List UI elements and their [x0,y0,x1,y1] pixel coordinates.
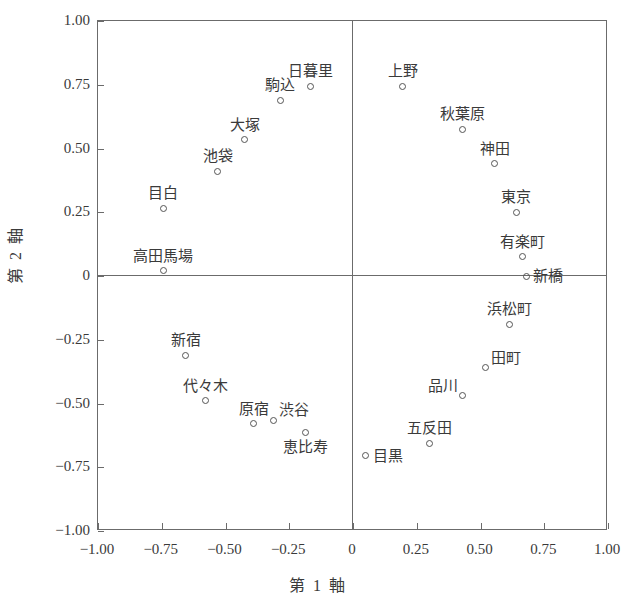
data-point [482,364,489,371]
data-point [506,321,513,328]
data-point-label: 神田 [480,142,510,157]
y-tick-label: −0.50 [36,395,90,410]
data-point-label: 秋葉原 [440,107,485,122]
data-point-label: 目黒 [373,448,403,463]
data-point-label: 新宿 [171,333,201,348]
data-point [202,397,209,404]
x-tick-label: −0.25 [271,542,306,557]
y-tick-label: −0.75 [36,459,90,474]
data-point-label: 新橋 [533,269,563,284]
x-tick [544,523,545,529]
x-tick-label: 0 [348,542,356,557]
data-point [459,392,466,399]
x-tick-label: −0.75 [143,542,178,557]
x-tick-label: 1.00 [594,542,620,557]
data-point-label: 原宿 [239,402,269,417]
data-point-label: 田町 [491,351,521,366]
y-tick [98,404,104,405]
data-point [519,253,526,260]
data-point-label: 有楽町 [500,235,545,250]
x-tick [353,523,354,529]
data-point-label: 浜松町 [487,302,532,317]
data-point [523,273,530,280]
scatter-plot-figure: 日暮里駒込大塚池袋目白高田馬場上野秋葉原神田東京有楽町新橋新宿代々木原宿渋谷恵比… [0,0,636,603]
y-tick [98,85,104,86]
data-point-label: 大塚 [230,118,260,133]
x-tick [226,523,227,529]
data-point [241,136,248,143]
data-point [277,97,284,104]
y-tick-label: 0.75 [36,76,90,91]
y-tick [98,531,104,532]
y-tick-label: −0.25 [36,331,90,346]
x-tick [98,523,99,529]
x-tick-label: 0.75 [530,542,556,557]
data-point [491,160,498,167]
data-point-label: 恵比寿 [283,440,328,455]
data-point [160,267,167,274]
data-point-label: 東京 [501,190,531,205]
y-tick [98,340,104,341]
data-point-label: 目白 [148,186,178,201]
data-point [399,83,406,90]
x-tick-label: −1.00 [80,542,115,557]
data-point [362,452,369,459]
y-tick [98,212,104,213]
x-tick [289,523,290,529]
data-point [270,417,277,424]
data-point-label: 品川 [428,379,458,394]
y-tick-label: 0.50 [36,140,90,155]
data-point-label: 駒込 [265,78,295,93]
data-point [307,83,314,90]
y-tick-label: 0 [36,268,90,283]
y-tick-label: 1.00 [36,13,90,28]
data-point-label: 上野 [388,64,418,79]
data-point-label: 渋谷 [279,403,309,418]
data-point-label: 高田馬場 [133,249,193,264]
data-point-label: 五反田 [407,421,452,436]
y-tick-label: −1.00 [36,523,90,538]
plot-area: 日暮里駒込大塚池袋目白高田馬場上野秋葉原神田東京有楽町新橋新宿代々木原宿渋谷恵比… [97,20,607,530]
x-tick-label: 0.50 [466,542,492,557]
y-tick [98,21,104,22]
data-point [513,209,520,216]
x-tick [417,523,418,529]
x-tick [162,523,163,529]
x-tick-label: 0.25 [403,542,429,557]
y-tick [98,276,104,277]
data-point [160,205,167,212]
data-point-label: 池袋 [203,149,233,164]
y-tick [98,149,104,150]
data-point [302,429,309,436]
x-axis-title: 第 1 軸 [0,572,636,596]
y-axis-title: 第 2 軸 [2,226,26,284]
data-point-label: 代々木 [183,379,228,394]
y-tick-label: 0.25 [36,204,90,219]
y-tick [98,467,104,468]
data-point [459,126,466,133]
data-point [182,352,189,359]
x-tick-label: −0.50 [207,542,242,557]
x-tick [481,523,482,529]
data-point [250,420,257,427]
data-point [426,440,433,447]
data-point [214,168,221,175]
x-tick [608,523,609,529]
